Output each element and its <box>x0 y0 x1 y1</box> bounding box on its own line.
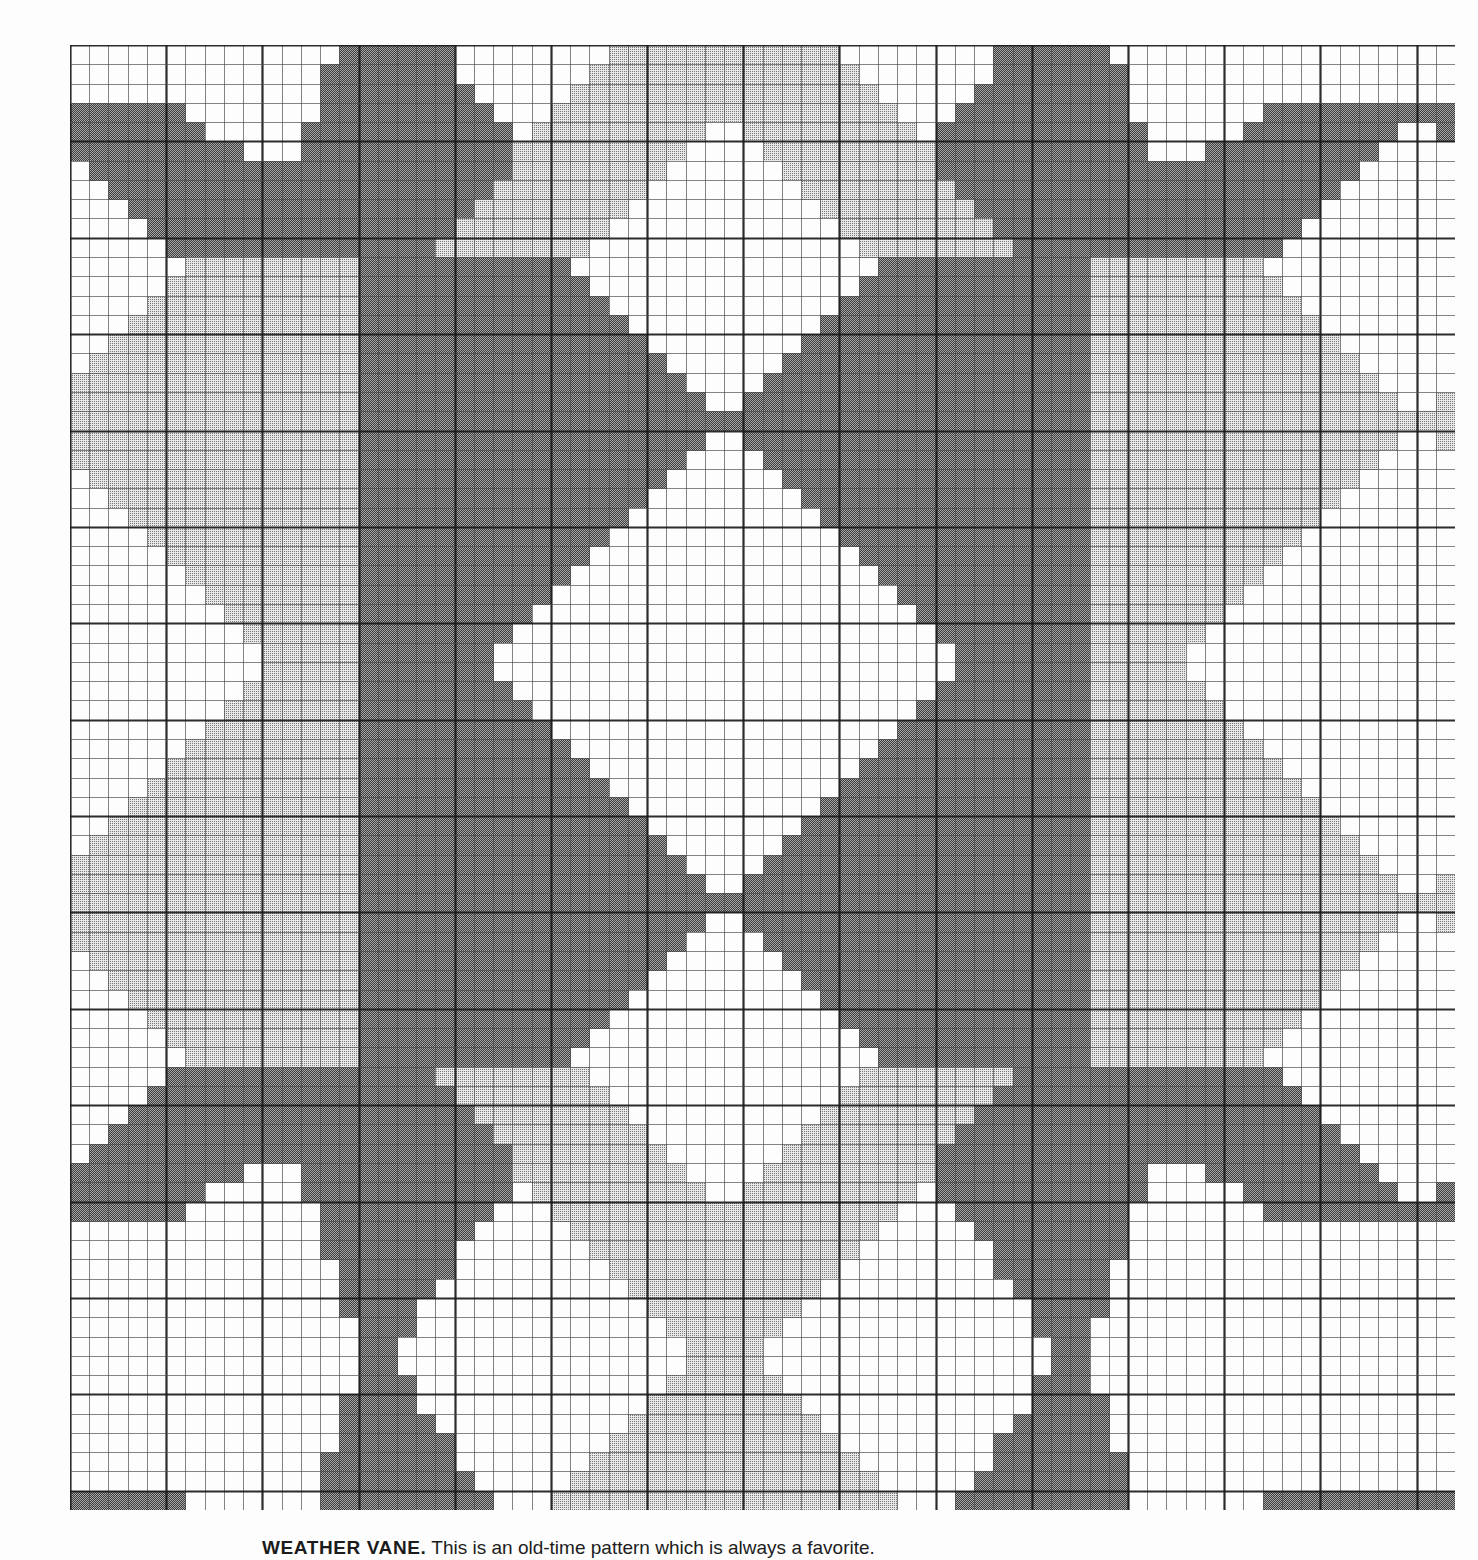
pattern-caption: WEATHER VANE. This is an old-time patter… <box>262 1536 1362 1560</box>
quilt-pattern-grid <box>70 45 1455 1510</box>
pattern-caption-title: WEATHER VANE. <box>262 1537 426 1558</box>
pattern-caption-body: This is an old-time pattern which is alw… <box>431 1537 875 1558</box>
page-root: WEATHER VANE. This is an old-time patter… <box>0 0 1478 1560</box>
quilt-chart-canvas <box>70 45 1455 1510</box>
